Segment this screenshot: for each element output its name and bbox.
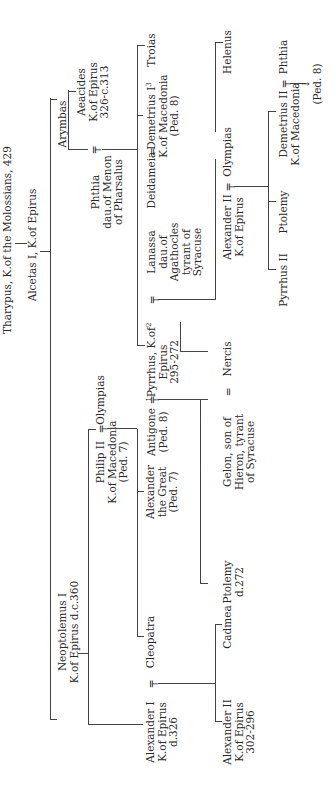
person-troias: Troias [146,33,158,66]
person-antigone: Antigone(Ped. 8) [146,408,169,456]
person-cadmea: Cadmea [222,605,234,648]
person-pyrrhus-ii: Pyrrhus II [278,253,290,307]
name-line: (Ped. 7) [167,471,179,512]
name-line: of Pharsalus [112,159,124,225]
person-olympias-1: Olympias [95,375,107,425]
name-line: (Ped. 8) [168,95,180,136]
connector [40,251,50,252]
marriage-symbol: ╤ [278,81,291,88]
name-line: Demetrius I [145,87,157,150]
name-line: (Ped. 7) [117,441,129,482]
person-arymbas: Arymbas [57,101,69,148]
name-line: Ptolemy [221,560,233,603]
name-line: Philip II [94,441,106,483]
name-line: K.of Epirus d.c.360 [68,581,80,683]
name-line: Pyrrhus, K.of [145,327,157,397]
name-line: tyrant of [180,229,192,275]
connector [268,201,276,202]
name-line: Aeacides [75,68,87,116]
name-line: Neoptolemus I [56,593,68,671]
name-line: K.of Macedonia [157,74,169,157]
name-line: 2 [145,323,153,327]
name-line: Lanassa [145,230,157,273]
marriage-symbol: ╤ [95,426,108,433]
person-pyrrhus: 1Pyrrhus, K.of2Epirus295-272 [146,323,181,402]
connector [180,351,208,352]
name-line: Syracuse [191,228,203,277]
person-helenus: Helenus [222,30,234,74]
name-line: Phthia [89,175,101,209]
name-line: the Great [156,467,168,518]
person-aeacides: AeacidesK.of Epirus326-c.313 [76,62,111,122]
person-tharypus: Tharypus, K.of the Molossians, 429 [2,146,14,334]
name-line: Demetrius II [277,90,289,157]
person-lanassa: Lanassadau.ofAgathoclestyrant ofSyracuse [146,223,204,282]
connector [137,429,138,637]
connector [200,400,201,584]
name-line: dau.of [157,235,169,268]
connector [102,149,138,150]
connector [158,683,216,684]
connector [158,299,216,300]
connector [137,115,143,116]
marriage-symbol: ╤ [88,147,101,154]
marriage-symbol: = [222,387,235,396]
pedigree-diagram: Tharypus, K.of the Molossians, 429 Alcet… [0,0,335,792]
person-alexander-i: Alexander IK.of Epirusd.326 [145,701,180,763]
person-phthia-menon: Phthiadau.of Menonof Pharsalus [90,155,125,228]
person-cleopatra: Cleopatra [145,616,157,668]
marriage-symbol: ╤ [146,397,159,404]
name-line: Alexander I [144,701,156,763]
ped-8-reference: (Ped. 8) [312,63,324,104]
person-deidameia: Deidameia [146,152,158,209]
name-line: K.of Epirus [233,702,245,762]
name-line: Antigone [145,408,157,456]
person-alexander-ii-302: Alexander IIK.of Epirus302-296 [222,699,257,765]
marriage-symbol: ╤ [146,297,159,304]
name-line: d.326 [167,717,179,747]
name-line: (Ped. 8) [157,411,169,452]
name-line: K.of Epirus [87,62,99,122]
connector [215,159,216,160]
name-line: K.of Macedonia [106,420,118,503]
name-line: Epirus [157,345,169,380]
person-alexander-ii-epirus: Alexander IIK.of Epirus [222,194,245,260]
person-ptolemy-d272: Ptolemyd.272 [222,560,245,603]
person-olympias-2: Olympias [222,127,234,177]
person-demetrius-i: Demetrius I3K.of Macedonia(Ped. 8) [146,74,181,157]
name-line: Gelon, son of [221,417,233,487]
connector [78,653,88,654]
person-philip-ii: Philip IIK.of Macedonia(Ped. 7) [95,420,130,503]
name-line: Alexander II [221,194,233,260]
person-phthia-2: Phthia [278,40,290,74]
connector [180,322,181,352]
marriage-symbol: ╤ [145,681,158,688]
name-line: K.of Epirus [156,702,168,762]
connector [50,719,57,720]
marriage-symbol: ╤ [222,184,235,191]
name-line: K.of Macedonia [289,82,301,165]
generation-line [50,98,51,720]
name-line: 3 [145,82,153,86]
name-line: of Syracuse [244,421,256,483]
connector [137,491,144,492]
name-line: K.of Epirus [233,197,245,257]
arrow-down-icon: ↓ [300,80,311,88]
name-line: Alexander [144,465,156,519]
generation-line [88,429,89,725]
name-line: dau.of Menon [101,155,113,228]
name-line: Hieron, tyrant [233,414,245,490]
person-alexander-the-great: Alexanderthe Great(Ped. 7) [145,465,180,519]
connector [137,636,144,637]
name-line: 326-c.313 [98,66,110,119]
connector [68,90,69,150]
name-line: 302-296 [244,710,256,754]
name-line: Alexander II [221,699,233,765]
connector [215,160,216,300]
name-line: d.272 [233,567,245,597]
person-neoptolemus: Neoptolemus IK.of Epirus d.c.360 [57,581,80,683]
name-line: Agathocles [168,223,180,282]
person-demetrius-ii: Demetrius IIK.of Macedonia [278,82,301,165]
connector [215,42,216,132]
connector [268,269,276,270]
